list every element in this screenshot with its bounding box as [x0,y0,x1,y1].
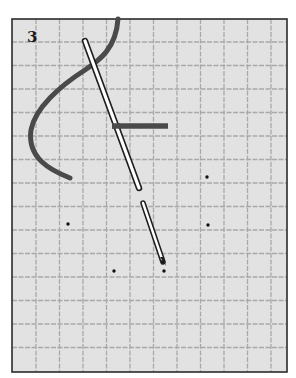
stitch-point-dot [206,223,209,226]
stitch-point-dot [205,175,208,178]
stitch-point-dot [66,222,69,225]
stitch-point-dot [112,269,115,272]
fabric-grid-illustration [0,0,296,378]
stitch-point-dot [162,269,165,272]
step-number: 3 [27,30,37,45]
stitch-diagram: 3 [0,0,296,378]
